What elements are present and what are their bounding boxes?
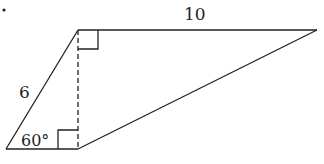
label-top-side: 10 <box>184 4 206 24</box>
right-angle-mark-bottom <box>58 130 78 149</box>
trapezoid-diagram: 10 6 60° <box>0 0 324 164</box>
label-left-side: 6 <box>19 82 30 102</box>
bullet-dot <box>2 8 5 11</box>
label-angle: 60° <box>21 131 49 150</box>
right-angle-mark-top <box>78 30 98 49</box>
diagonal-side <box>78 30 317 149</box>
